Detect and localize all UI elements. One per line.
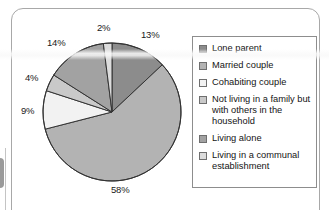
chart-screenshot: 13% 58% 9% 4% 14% 2% Lone parent Married… [0,0,329,210]
legend-swatch-icon [199,152,207,160]
legend-item-living-alone[interactable]: Living alone [199,133,311,144]
slice-label-living-alone: 14% [47,37,65,48]
slice-label-not-living-in-family: 4% [25,72,38,83]
legend-item-label: Living alone [212,133,262,144]
legend-item-label: Living in a communal establishment [212,150,311,172]
legend-item-label: Cohabiting couple [212,77,286,88]
chart-legend: Lone parent Married couple Cohabiting co… [192,36,317,188]
pie-chart-svg [42,42,182,182]
legend-item-label: Married couple [212,60,274,71]
legend-item-not-living-in-family[interactable]: Not living in a family but with others i… [199,94,311,127]
legend-item-lone-parent[interactable]: Lone parent [199,43,311,54]
pie-slice-group [43,43,181,181]
legend-item-communal-establishment[interactable]: Living in a communal establishment [199,150,311,172]
slice-label-lone-parent: 13% [141,29,159,40]
legend-swatch-icon [199,45,207,53]
page-edge-line [5,148,6,210]
legend-swatch-icon [199,135,207,143]
legend-item-label: Lone parent [212,43,262,54]
legend-swatch-icon [199,96,207,104]
pie-chart [42,42,182,182]
page-edge-artifact [0,158,4,188]
slice-label-married-couple: 58% [111,184,129,195]
legend-item-label: Not living in a family but with others i… [212,94,311,127]
slice-label-cohabiting-couple: 9% [21,105,34,116]
legend-swatch-icon [199,62,207,70]
slice-label-communal-establishment: 2% [97,22,110,33]
legend-swatch-icon [199,79,207,87]
legend-item-cohabiting-couple[interactable]: Cohabiting couple [199,77,311,88]
legend-item-married-couple[interactable]: Married couple [199,60,311,71]
